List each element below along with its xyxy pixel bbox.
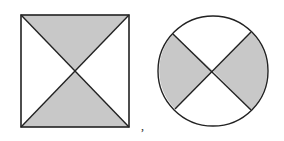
figure-canvas: , [0, 0, 284, 141]
circle-figure [158, 16, 268, 126]
square-figure [21, 15, 129, 127]
comma-separator: , [141, 119, 144, 133]
square-bottom-shaded-triangle [21, 71, 129, 127]
square-top-shaded-triangle [21, 15, 129, 71]
